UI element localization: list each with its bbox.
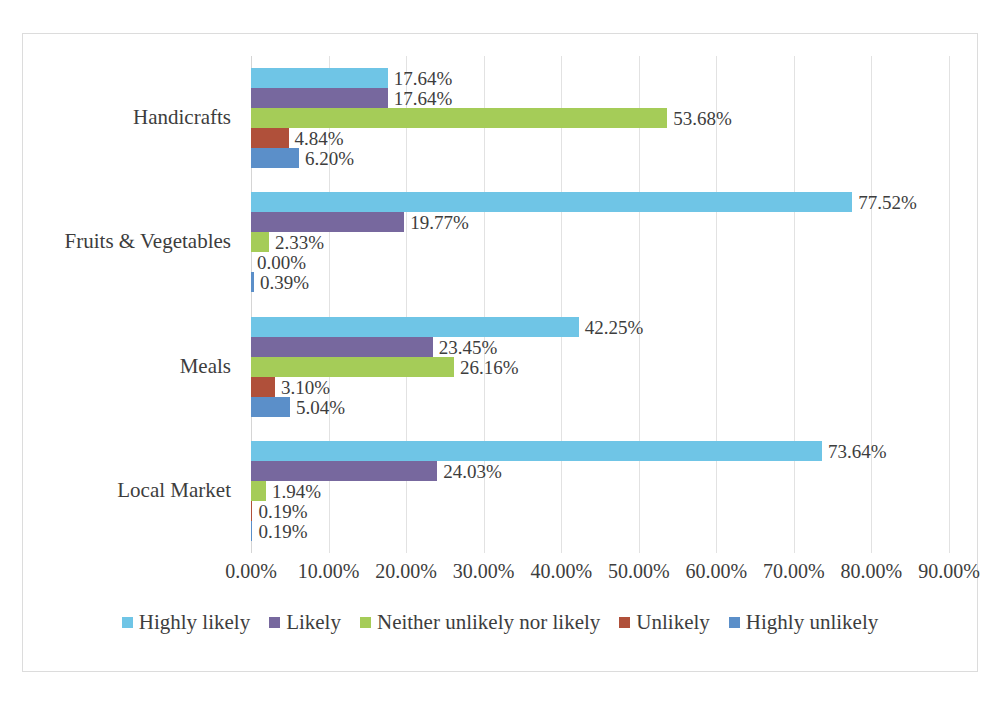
bar-group: 17.64%17.64%53.68%4.84%6.20% [251, 68, 949, 168]
bar-value-label: 1.94% [266, 481, 321, 500]
bar-value-label: 0.19% [252, 521, 307, 540]
bar [251, 88, 388, 108]
bar-row: 1.94% [251, 481, 949, 501]
bar-value-label: 42.25% [579, 317, 644, 336]
bar-value-label: 23.45% [433, 337, 498, 356]
bar [251, 148, 299, 168]
legend-swatch-icon [360, 617, 371, 628]
legend-item[interactable]: Neither unlikely nor likely [360, 612, 600, 633]
bar-value-label: 3.10% [275, 377, 330, 396]
chart-legend: Highly likelyLikelyNeither unlikely nor … [23, 612, 977, 633]
bar-row: 4.84% [251, 128, 949, 148]
bar-value-label: 17.64% [388, 69, 453, 88]
bar-group: 73.64%24.03%1.94%0.19%0.19% [251, 441, 949, 541]
bar-value-label: 0.00% [251, 253, 306, 272]
bar-value-label: 5.04% [290, 397, 345, 416]
bar [251, 317, 579, 337]
legend-item[interactable]: Likely [269, 612, 341, 633]
bar-row: 5.04% [251, 397, 949, 417]
bar-value-label: 0.39% [254, 273, 309, 292]
bar [251, 377, 275, 397]
bar-value-label: 6.20% [299, 149, 354, 168]
legend-label: Highly likely [139, 612, 250, 633]
chart-frame: 17.64%17.64%53.68%4.84%6.20%77.52%19.77%… [22, 33, 978, 672]
category-label: Handicrafts [133, 107, 231, 128]
bar-row: 0.00% [251, 252, 949, 272]
bar [251, 108, 667, 128]
bar-row: 19.77% [251, 212, 949, 232]
gridline [949, 56, 950, 553]
bar-row: 0.19% [251, 501, 949, 521]
bar-row: 73.64% [251, 441, 949, 461]
value-axis-tick-label: 80.00% [841, 561, 903, 581]
bar [251, 337, 433, 357]
category-axis: HandicraftsFruits & VegetablesMealsLocal… [23, 56, 231, 553]
bar [251, 357, 454, 377]
value-axis-tick-label: 60.00% [685, 561, 747, 581]
value-axis-tick-label: 30.00% [453, 561, 515, 581]
value-axis-tick-label: 20.00% [375, 561, 437, 581]
value-axis-tick-label: 0.00% [225, 561, 277, 581]
bar [251, 128, 289, 148]
legend-item[interactable]: Unlikely [619, 612, 710, 633]
legend-label: Neither unlikely nor likely [377, 612, 600, 633]
bar [251, 441, 822, 461]
legend-swatch-icon [122, 617, 133, 628]
bar-row: 0.39% [251, 272, 949, 292]
bar-value-label: 0.19% [252, 501, 307, 520]
legend-label: Highly unlikely [746, 612, 878, 633]
bar-row: 17.64% [251, 68, 949, 88]
bar-value-label: 2.33% [269, 233, 324, 252]
legend-label: Unlikely [636, 612, 710, 633]
bar-row: 24.03% [251, 461, 949, 481]
bar-value-label: 4.84% [289, 129, 344, 148]
bar [251, 461, 437, 481]
bar-group: 42.25%23.45%26.16%3.10%5.04% [251, 317, 949, 417]
bar [251, 397, 290, 417]
value-axis-tick-label: 10.00% [298, 561, 360, 581]
bar-row: 6.20% [251, 148, 949, 168]
bar-row: 0.19% [251, 521, 949, 541]
bar-row: 3.10% [251, 377, 949, 397]
value-axis-tick-label: 40.00% [530, 561, 592, 581]
bar-row: 26.16% [251, 357, 949, 377]
bar-value-label: 73.64% [822, 441, 887, 460]
bar [251, 212, 404, 232]
bar-value-label: 17.64% [388, 89, 453, 108]
bar-row: 2.33% [251, 232, 949, 252]
value-axis-tick-label: 50.00% [608, 561, 670, 581]
bar-value-label: 77.52% [852, 193, 917, 212]
plot-area: 17.64%17.64%53.68%4.84%6.20%77.52%19.77%… [251, 56, 949, 553]
bar-row: 17.64% [251, 88, 949, 108]
legend-item[interactable]: Highly unlikely [729, 612, 878, 633]
category-label: Meals [180, 356, 231, 377]
bar [251, 232, 269, 252]
legend-item[interactable]: Highly likely [122, 612, 250, 633]
bar-group: 77.52%19.77%2.33%0.00%0.39% [251, 192, 949, 292]
value-axis-labels: 0.00%10.00%20.00%30.00%40.00%50.00%60.00… [251, 561, 949, 591]
bar-row: 53.68% [251, 108, 949, 128]
value-axis-tick-label: 70.00% [763, 561, 825, 581]
bar-row: 23.45% [251, 337, 949, 357]
category-label: Local Market [117, 480, 231, 501]
bar-row: 77.52% [251, 192, 949, 212]
bar-value-label: 53.68% [667, 109, 732, 128]
legend-swatch-icon [269, 617, 280, 628]
bar-row: 42.25% [251, 317, 949, 337]
bar-value-label: 19.77% [404, 213, 469, 232]
bar [251, 68, 388, 88]
value-axis-tick-label: 90.00% [918, 561, 980, 581]
bar-value-label: 26.16% [454, 357, 519, 376]
bar [251, 192, 852, 212]
category-label: Fruits & Vegetables [65, 231, 231, 252]
bar [251, 481, 266, 501]
legend-swatch-icon [619, 617, 630, 628]
legend-label: Likely [286, 612, 341, 633]
legend-swatch-icon [729, 617, 740, 628]
bar-value-label: 24.03% [437, 461, 502, 480]
